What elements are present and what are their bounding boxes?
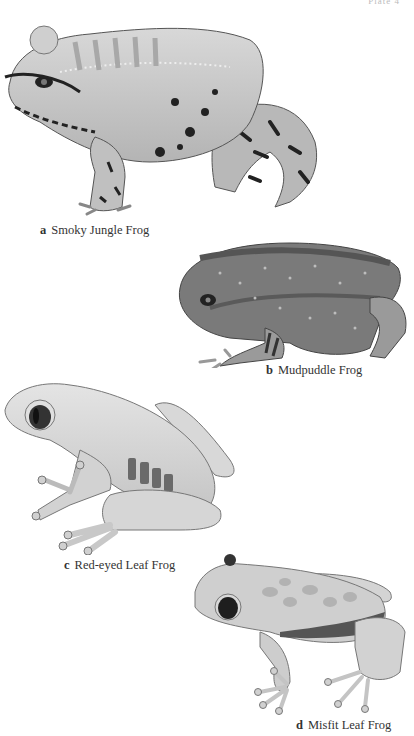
smoky-jungle-frog-illustration	[0, 12, 330, 222]
caption-letter: d	[296, 718, 303, 732]
misfit-leaf-frog-illustration	[190, 552, 414, 717]
caption-c: cRed-eyed Leaf Frog	[64, 558, 175, 573]
caption-letter: a	[40, 223, 46, 237]
red-eyed-leaf-frog-illustration	[0, 380, 250, 555]
caption-a: aSmoky Jungle Frog	[40, 223, 149, 238]
caption-text: Smoky Jungle Frog	[51, 223, 149, 237]
figure-misfit-leaf-frog	[190, 552, 414, 717]
mudpuddle-frog-illustration	[170, 238, 414, 368]
caption-b: bMudpuddle Frog	[266, 363, 362, 378]
caption-text: Misfit Leaf Frog	[308, 718, 391, 732]
caption-text: Red-eyed Leaf Frog	[75, 558, 176, 572]
caption-d: dMisfit Leaf Frog	[296, 718, 391, 733]
figure-smoky-jungle-frog	[0, 12, 330, 222]
caption-letter: b	[266, 363, 273, 377]
caption-text: Mudpuddle Frog	[278, 363, 362, 377]
caption-letter: c	[64, 558, 70, 572]
plate-label: Plate 4	[368, 0, 400, 6]
figure-red-eyed-leaf-frog	[0, 380, 250, 555]
figure-mudpuddle-frog	[170, 238, 414, 368]
